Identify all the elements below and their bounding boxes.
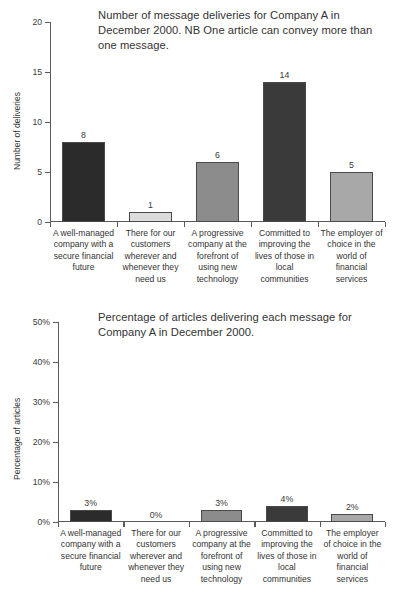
bar-slot: 3% [189,322,254,522]
x-tick-mark [385,222,386,227]
x-category-label: Committed to improving the lives of thos… [254,528,319,585]
bar-slot: 6 [184,22,251,222]
bar [330,172,373,222]
bar-slot: 5 [318,22,385,222]
bar [196,162,239,222]
y-axis-label-deliveries: Number of deliveries [12,92,22,170]
y-tick-label: 50% [33,317,50,327]
chart-percentage: Percentage of articles delivering each m… [0,300,393,615]
y-tick-label: 0% [38,517,50,527]
bar [62,142,105,222]
bar-value-label: 0% [123,510,188,520]
plot-area-deliveries: 05101520 816145 [50,22,385,222]
x-category-label: There for our customers wherever and whe… [117,228,184,285]
x-category-label: A progressive company at the forefront o… [189,528,254,585]
y-tick-label: 10 [32,117,42,127]
bar-value-label: 3% [189,498,254,508]
bar-slot: 1 [117,22,184,222]
bar-value-label: 5 [318,160,385,170]
y-tick-label: 0 [37,217,42,227]
x-tick-mark [254,522,255,527]
y-tick-label: 10% [33,477,50,487]
x-tick-mark [189,522,190,527]
y-tick-label: 5 [37,167,42,177]
bar-slot: 0% [123,322,188,522]
bar-slot: 8 [50,22,117,222]
bar-slot: 3% [58,322,123,522]
bar [201,510,243,522]
x-category-label: A well-managed company with a secure fin… [50,228,117,285]
y-tick-label: 30% [33,397,50,407]
bar [331,514,373,522]
bar-value-label: 6 [184,150,251,160]
x-category-label: A progressive company at the forefront o… [184,228,251,285]
bar-value-label: 8 [50,130,117,140]
x-tick-mark [117,222,118,227]
bar-value-label: 3% [58,498,123,508]
y-tick-label: 15 [32,67,42,77]
bars-deliveries: 816145 [50,22,385,222]
x-category-label: There for our customers wherever and whe… [123,528,188,585]
x-category-label: Committed to improving the lives of thos… [251,228,318,285]
bar-slot: 4% [254,322,319,522]
x-tick-mark [318,222,319,227]
x-tick-mark [184,222,185,227]
x-category-label: The employer of choice in the world of f… [320,528,385,585]
x-tick-mark [320,522,321,527]
x-tick-mark [50,222,51,227]
x-tick-mark [251,222,252,227]
bar [266,506,308,522]
bar [129,212,172,222]
x-axis-categories-deliveries: A well-managed company with a secure fin… [50,228,385,285]
bar-value-label: 2% [320,502,385,512]
bars-percentage: 3%0%3%4%2% [58,322,385,522]
y-tick-label: 40% [33,357,50,367]
plot-area-percentage: 0%10%20%30%40%50% 3%0%3%4%2% [58,322,385,522]
bar-value-label: 1 [117,200,184,210]
x-tick-mark [58,522,59,527]
y-tick-label: 20% [33,437,50,447]
bar [263,82,306,222]
x-category-label: The employer of choice in the world of f… [318,228,385,285]
x-tick-mark [385,522,386,527]
bar-slot: 14 [251,22,318,222]
x-category-label: A well-managed company with a secure fin… [58,528,123,585]
x-axis-categories-percentage: A well-managed company with a secure fin… [58,528,385,585]
bar [70,510,112,522]
bar-value-label: 14 [251,70,318,80]
x-tick-mark [123,522,124,527]
chart-deliveries: Number of message deliveries for Company… [0,0,393,300]
bar-slot: 2% [320,322,385,522]
y-axis-label-percentage: Percentage of articles [12,398,22,480]
y-tick-label: 20 [32,17,42,27]
bar-value-label: 4% [254,494,319,504]
